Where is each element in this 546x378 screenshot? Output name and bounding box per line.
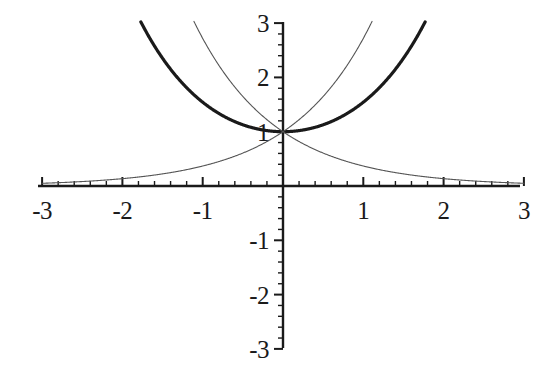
plot-canvas: -3-2-1123321-1-2-3	[0, 0, 546, 378]
y-tick-label-neg1: -1	[249, 228, 269, 253]
y-tick-label-neg2: -2	[249, 282, 269, 307]
y-tick-label-neg3: -3	[249, 336, 269, 361]
x-tick-label-neg3: -3	[32, 198, 52, 223]
y-tick-label-2: 2	[257, 65, 269, 90]
x-tick-label-3: 3	[518, 198, 530, 223]
function-plot	[0, 0, 546, 378]
y-tick-label-3: 3	[257, 11, 269, 36]
x-tick-label-1: 1	[357, 198, 369, 223]
x-tick-label-2: 2	[438, 198, 450, 223]
x-tick-label-neg2: -2	[112, 198, 132, 223]
y-tick-label-1: 1	[257, 119, 269, 144]
x-tick-label-neg1: -1	[193, 198, 213, 223]
